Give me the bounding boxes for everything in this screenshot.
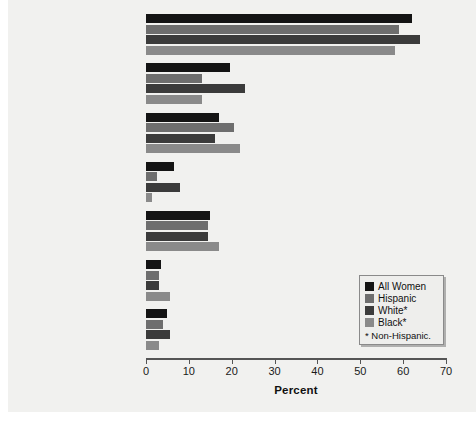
bar	[146, 46, 395, 55]
bar	[146, 63, 230, 72]
bar	[146, 74, 202, 83]
x-axis-tick	[275, 358, 276, 364]
bar	[146, 320, 163, 329]
bar	[146, 221, 208, 230]
legend-footnote: * Non-Hispanic.	[365, 330, 439, 341]
bar	[146, 123, 234, 132]
x-axis-tick	[446, 358, 447, 364]
bar	[146, 84, 245, 93]
bar	[146, 330, 170, 339]
x-axis-tick-label: 50	[345, 365, 375, 377]
bar	[146, 95, 202, 104]
bar	[146, 172, 157, 181]
x-axis-tick-label: 0	[131, 365, 161, 377]
legend-label: All Women	[378, 281, 426, 292]
x-axis-tick-label: 20	[217, 365, 247, 377]
legend-swatch	[365, 306, 374, 315]
legend-label: Black*	[378, 317, 406, 328]
bar	[146, 144, 240, 153]
x-axis-tick	[189, 358, 190, 364]
bar	[146, 271, 159, 280]
bar-group: Female sterilization	[146, 113, 446, 154]
bar	[146, 232, 208, 241]
bar	[146, 260, 161, 269]
bar	[146, 134, 215, 143]
bar	[146, 35, 420, 44]
x-axis-tick-label: 40	[302, 365, 332, 377]
bar	[146, 341, 159, 350]
bar	[146, 193, 152, 202]
x-axis-tick-label: 70	[431, 365, 461, 377]
chart-figure: Currently usingcontraceptionPillFemale s…	[8, 0, 476, 412]
x-axis-tick-label: 10	[174, 365, 204, 377]
chart-legend: All WomenHispanicWhite*Black* * Non-Hisp…	[359, 275, 444, 345]
bar	[146, 113, 219, 122]
bar	[146, 14, 412, 23]
x-axis-tick	[146, 358, 147, 364]
legend-entry: White*	[365, 304, 439, 316]
bar	[146, 292, 170, 301]
legend-entry: Hispanic	[365, 292, 439, 304]
x-axis-tick	[232, 358, 233, 364]
bar-group: Currently usingcontraception	[146, 14, 446, 55]
bar	[146, 25, 399, 34]
bar-group: Pill	[146, 63, 446, 104]
bar	[146, 183, 180, 192]
legend-entries: All WomenHispanicWhite*Black*	[365, 280, 439, 328]
bar	[146, 281, 159, 290]
x-axis-line	[146, 358, 446, 360]
legend-label: Hispanic	[378, 293, 416, 304]
x-axis-title: Percent	[146, 384, 446, 396]
x-axis-tick-label: 60	[388, 365, 418, 377]
legend-entry: All Women	[365, 280, 439, 292]
legend-entry: Black*	[365, 316, 439, 328]
x-axis-tick	[360, 358, 361, 364]
legend-label: White*	[378, 305, 407, 316]
legend-swatch	[365, 318, 374, 327]
bar	[146, 309, 167, 318]
bar-group: Male sterilization	[146, 162, 446, 203]
legend-swatch	[365, 294, 374, 303]
bar	[146, 242, 219, 251]
legend-swatch	[365, 282, 374, 291]
bar	[146, 211, 210, 220]
bar-group: Condom	[146, 211, 446, 252]
x-axis-tick-label: 30	[260, 365, 290, 377]
bar	[146, 162, 174, 171]
x-axis-tick	[317, 358, 318, 364]
x-axis-tick	[403, 358, 404, 364]
